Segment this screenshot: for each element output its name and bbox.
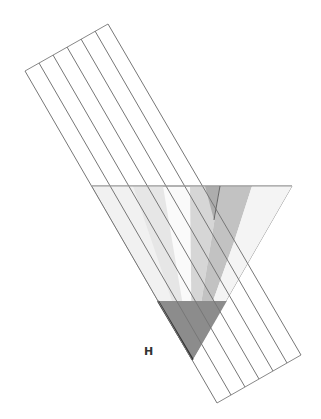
label-h: H (144, 345, 153, 358)
dark-triangle (158, 301, 228, 360)
strip-diagram (0, 0, 321, 419)
